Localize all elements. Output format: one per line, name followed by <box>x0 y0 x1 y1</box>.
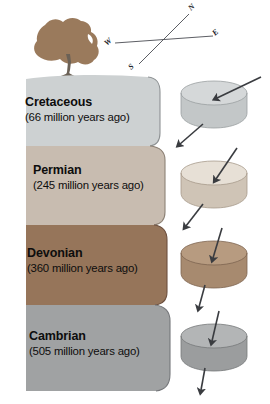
compass-label-n: N <box>186 1 198 13</box>
compass-label-s: S <box>126 61 136 71</box>
compass-label-w: W <box>102 35 114 47</box>
compass-letter-s: S <box>126 61 136 71</box>
magnetic-arrow-out-1 <box>180 124 203 144</box>
strata-block-devonian <box>26 225 167 305</box>
magnetic-arrow-out-2 <box>186 204 203 226</box>
rock-sample-permian <box>181 148 247 226</box>
compass-letter-w: W <box>102 35 114 47</box>
strata-column <box>26 75 170 391</box>
strata-block-permian <box>26 146 165 225</box>
tree-icon <box>34 18 99 84</box>
compass-letter-n: N <box>186 1 198 13</box>
magnetic-arrow-out-4 <box>201 368 205 390</box>
rock-sample-devonian <box>181 228 247 307</box>
strata-block-cambrian <box>26 305 170 391</box>
magnetic-arrow-out-3 <box>199 285 205 307</box>
compass-rose: N S W E <box>102 1 220 71</box>
rock-sample-cambrian <box>181 311 247 390</box>
compass-ns-axis <box>139 14 189 64</box>
strata-block-cretaceous <box>26 75 160 146</box>
figure-canvas: N S W E <box>0 0 270 404</box>
geology-illustration: N S W E <box>0 0 270 404</box>
rock-sample-cretaceous <box>180 77 261 144</box>
